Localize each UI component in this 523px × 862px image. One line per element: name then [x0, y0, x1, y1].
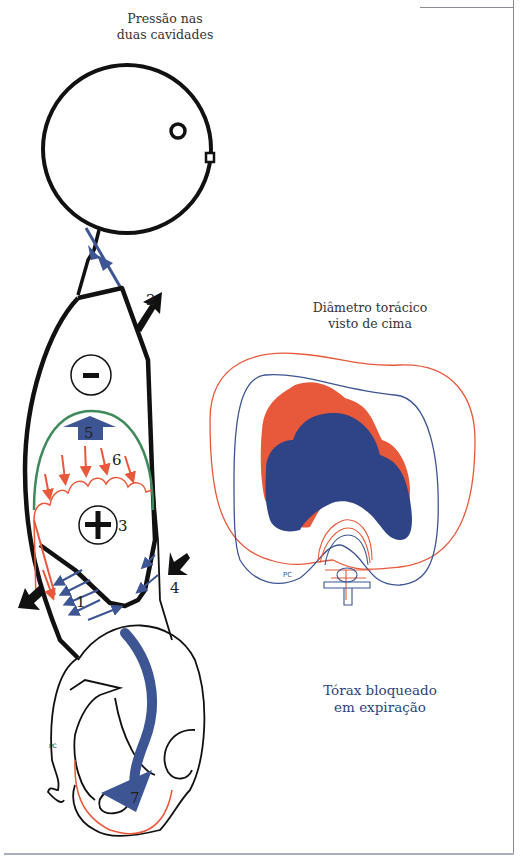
arrow-7-down-icon — [101, 633, 152, 812]
label-pc-side: PC — [49, 742, 57, 749]
label-1: 1 — [76, 593, 86, 611]
positive-pressure-symbol — [79, 506, 117, 544]
label-2: 2 — [146, 291, 156, 309]
label-4: 4 — [170, 579, 180, 597]
arrows-1 — [58, 555, 158, 620]
label-5: 5 — [84, 424, 94, 442]
arrow-4-inward-icon — [168, 552, 190, 575]
orange-side-line — [34, 520, 55, 595]
neck — [78, 228, 122, 295]
negative-pressure-symbol — [71, 355, 111, 395]
label-pc-top: PC — [283, 571, 292, 579]
thoracic-cross-section: PC — [210, 353, 475, 605]
label-3: 3 — [118, 517, 128, 535]
arrow-left-outward-icon — [18, 585, 44, 610]
ear-icon — [206, 153, 214, 162]
diagram-canvas: 5 6 3 1 2 4 — [0, 0, 523, 862]
head-circle — [43, 65, 211, 233]
eye-icon — [171, 124, 185, 138]
arrow-5-up-icon: 5 — [63, 416, 116, 442]
label-7: 7 — [130, 789, 140, 807]
label-6: 6 — [112, 451, 122, 469]
head-figure — [43, 65, 214, 233]
